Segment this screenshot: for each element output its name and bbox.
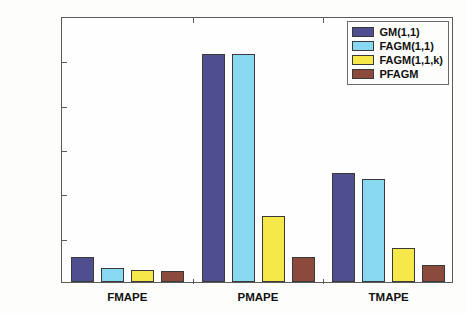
bar-fmape-3 [161, 271, 184, 282]
y-tick-mark [62, 107, 67, 108]
legend-label: PFAGM [379, 68, 418, 80]
bar-tmape-1 [362, 179, 385, 282]
bar-chart-figure: Mean absolute percentage error(%) 051015… [0, 0, 467, 313]
bar-pmape-3 [292, 257, 315, 282]
legend-item[interactable]: FAGM(1,1,k) [352, 53, 443, 67]
x-tick-mark [323, 18, 324, 23]
bar-fmape-2 [131, 270, 154, 282]
x-axis-label-pmape: PMAPE [193, 291, 323, 303]
plot-area: 051015202530 FMAPEPMAPETMAPE GM(1,1)FAGM… [61, 17, 453, 283]
y-tick-mark [62, 151, 67, 152]
bar-fmape-1 [101, 268, 124, 282]
bar-fmape-0 [71, 257, 94, 282]
bar-tmape-3 [422, 265, 445, 282]
bar-tmape-0 [332, 173, 355, 282]
x-tick-mark [193, 279, 194, 284]
x-axis-label-fmape: FMAPE [62, 291, 192, 303]
bar-pmape-2 [262, 216, 285, 282]
legend-item[interactable]: PFAGM [352, 67, 443, 81]
x-tick-mark [323, 279, 324, 284]
legend-item[interactable]: FAGM(1,1) [352, 39, 443, 53]
legend-label: GM(1,1) [379, 26, 419, 38]
legend-label: FAGM(1,1) [379, 40, 433, 52]
x-tick-mark [193, 18, 194, 23]
y-tick-mark [62, 240, 67, 241]
legend-swatch-icon [352, 41, 374, 51]
legend: GM(1,1)FAGM(1,1)FAGM(1,1,k)PFAGM [347, 21, 449, 85]
legend-label: FAGM(1,1,k) [379, 54, 443, 66]
y-tick-mark [62, 195, 67, 196]
legend-swatch-icon [352, 27, 374, 37]
legend-swatch-icon [352, 55, 374, 65]
bar-pmape-0 [202, 54, 225, 282]
legend-item[interactable]: GM(1,1) [352, 25, 443, 39]
bar-tmape-2 [392, 248, 415, 282]
legend-swatch-icon [352, 69, 374, 79]
x-axis-label-tmape: TMAPE [324, 291, 454, 303]
y-tick-mark [62, 62, 67, 63]
bar-pmape-1 [232, 54, 255, 282]
